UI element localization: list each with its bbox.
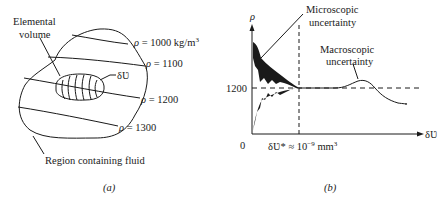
figure-canvas: Elemental volume δƲ ρ = 1000 kg/m3 ρ = 1…	[0, 0, 447, 201]
region-label: Region containing fluid	[45, 155, 145, 166]
region-leader	[33, 136, 44, 154]
blob-hatch	[62, 80, 65, 99]
caption-b: (b)	[324, 182, 337, 194]
origin-label: 0	[240, 140, 245, 151]
delta-v-leader	[100, 75, 116, 80]
y-tick-1200: 1200	[226, 83, 247, 94]
caption-a: (a)	[103, 182, 116, 194]
blob-hatch	[89, 76, 91, 99]
micro-label: Microscopic	[306, 4, 359, 15]
macro-label: Macroscopic	[320, 44, 375, 55]
x-axis-arrow-icon	[417, 132, 424, 137]
contour-label-1000: ρ = 1000 kg/m3	[133, 36, 199, 48]
contour-label-1100: ρ = 1100	[145, 58, 183, 69]
panel-a: Elemental volume δƲ ρ = 1000 kg/m3 ρ = 1…	[13, 16, 199, 194]
macro-label: uncertainty	[326, 56, 374, 67]
density-curve	[299, 80, 407, 104]
contour-line-1000	[72, 35, 128, 44]
micro-leader	[261, 14, 303, 58]
y-axis-label: ρ	[249, 11, 255, 22]
contour-line-1100	[48, 57, 145, 66]
delta-v-label: δƲ	[117, 70, 130, 81]
blob-hatch	[95, 80, 97, 97]
micro-label: uncertainty	[309, 17, 357, 28]
elemental-volume-label: Elemental	[13, 16, 56, 27]
elemental-volume-label: volume	[19, 29, 51, 40]
blob-hatch	[68, 76, 70, 100]
panel-b: ρ Microscopic uncertainty Macroscopic un…	[226, 4, 438, 194]
x-axis-label: δƲ	[425, 129, 438, 140]
contour-label-1300: ρ = 1300	[118, 122, 156, 133]
critical-volume-label: δƲ* ≈ 10−9 mm3	[268, 140, 338, 152]
contour-label-1200: ρ = 1200	[140, 94, 178, 105]
microscopic-noise-lower	[253, 88, 300, 130]
blob-hatch	[82, 75, 84, 100]
microscopic-noise-upper	[253, 42, 300, 88]
y-axis-arrow-icon	[250, 24, 255, 31]
contour-line-1300	[18, 107, 118, 126]
